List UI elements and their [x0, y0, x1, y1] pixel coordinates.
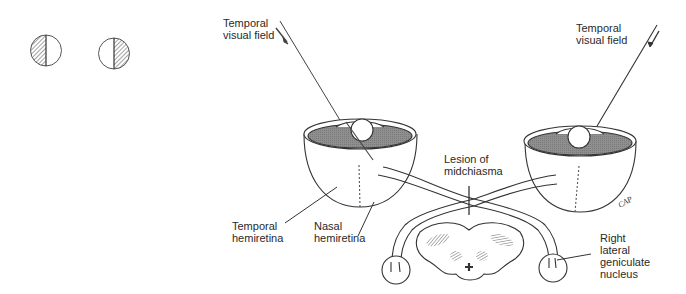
- right-eyeball: [524, 126, 636, 212]
- left-temporal-field-label: Temporal visual field: [223, 17, 274, 41]
- left-eyeball: [304, 119, 417, 207]
- nasal-hemiretina-label: Nasal hemiretina: [314, 220, 365, 244]
- right-lateral-geniculate-nucleus: [539, 254, 567, 282]
- lateral-geniculate-nucleus-label: Right lateral geniculate nucleus: [600, 232, 650, 280]
- lesion-label: Lesion of midchiasma: [444, 153, 503, 177]
- right-temporal-field-label: Temporal visual field: [576, 22, 627, 46]
- left-lateral-geniculate-nucleus: [382, 256, 410, 284]
- artist-signature: CAP: [617, 194, 635, 209]
- temporal-hemiretina-label: Temporal hemiretina: [232, 220, 283, 244]
- left-eye-visual-field-icon: [31, 35, 62, 66]
- midbrain-cross-section: [416, 223, 523, 280]
- right-eye-visual-field-icon: [99, 38, 130, 69]
